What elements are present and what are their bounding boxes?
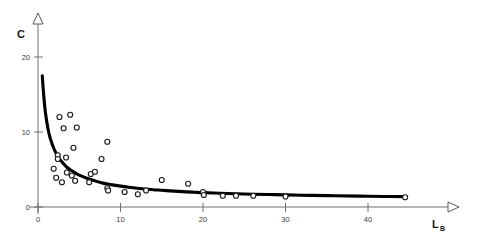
x-axis-title: L — [432, 218, 439, 230]
data-point — [135, 192, 140, 197]
data-point — [220, 193, 225, 198]
data-point — [69, 173, 74, 178]
chart-figure: 010203040 01020 L B C — [0, 0, 480, 239]
data-point — [159, 178, 164, 183]
axes-group — [30, 13, 459, 214]
data-point — [201, 193, 206, 198]
data-point — [99, 157, 104, 162]
data-point — [122, 190, 127, 195]
x-tick-label: 10 — [116, 215, 124, 224]
data-point — [92, 169, 97, 174]
data-point — [54, 175, 59, 180]
y-axis-ticks: 01020 — [22, 53, 43, 212]
data-point — [64, 155, 69, 160]
data-point — [51, 166, 56, 171]
x-axis-title-group: L B — [432, 218, 445, 232]
data-point — [71, 145, 76, 150]
y-tick-label: 0 — [26, 203, 30, 212]
scatter-plot-svg: 010203040 01020 L B C — [0, 0, 480, 239]
y-axis-title: C — [17, 28, 25, 40]
data-point — [144, 188, 149, 193]
data-point — [186, 181, 191, 186]
data-point — [234, 193, 239, 198]
fitted-curve — [42, 76, 405, 197]
data-point — [68, 112, 73, 117]
data-point — [87, 180, 92, 185]
data-point — [106, 188, 111, 193]
data-point — [74, 125, 79, 130]
data-point — [57, 115, 62, 120]
x-tick-label: 0 — [36, 215, 40, 224]
x-tick-label: 30 — [281, 215, 289, 224]
x-axis-ticks: 010203040 — [36, 203, 372, 224]
x-tick-label: 20 — [199, 215, 207, 224]
data-point — [59, 180, 64, 185]
data-point — [61, 126, 66, 131]
data-point — [251, 193, 256, 198]
x-axis-title-subscript: B — [440, 225, 445, 232]
data-point — [105, 139, 110, 144]
data-point — [55, 157, 60, 162]
data-point — [73, 178, 78, 183]
data-point — [64, 170, 69, 175]
data-point — [403, 195, 408, 200]
y-tick-label: 10 — [22, 128, 30, 137]
x-tick-label: 40 — [364, 215, 372, 224]
y-axis-arrow-icon — [33, 13, 43, 24]
data-points-group — [51, 112, 407, 200]
data-point — [283, 194, 288, 199]
y-tick-label: 20 — [22, 53, 30, 62]
x-axis-arrow-icon — [448, 202, 459, 212]
